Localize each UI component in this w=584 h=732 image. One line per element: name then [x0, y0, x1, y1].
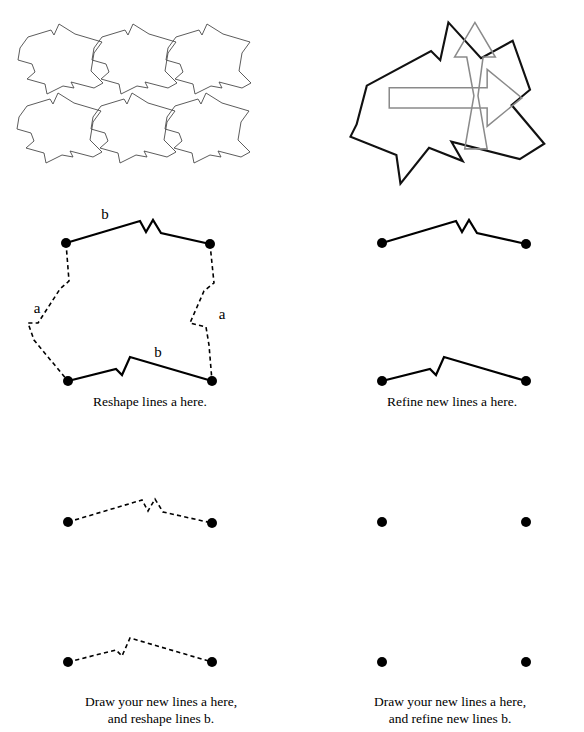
draw-and-refine-panel — [352, 490, 552, 675]
tile — [165, 93, 250, 163]
caption-draw-refine: Draw your new lines a here, and refine n… — [325, 693, 575, 727]
vertex-dot — [63, 517, 73, 527]
label-b-top: b — [101, 206, 109, 222]
edge-b-bottom-dashed — [68, 638, 212, 662]
vertex-dot — [377, 376, 387, 386]
caption-refine-a: Refine new lines a here. — [330, 393, 574, 410]
vertex-dot — [521, 239, 531, 249]
vertex-dot — [377, 657, 387, 667]
edge-b-top-dashed — [68, 499, 212, 523]
edge-b-bottom — [68, 357, 212, 381]
tile — [92, 24, 177, 94]
vertex-dot — [61, 238, 71, 248]
vertex-dot — [377, 238, 387, 248]
vertex-dot — [63, 376, 73, 386]
vertex-dot — [205, 239, 215, 249]
draw-and-reshape-panel — [40, 490, 240, 675]
edge-b-bottom — [382, 357, 526, 381]
label-a-left: a — [34, 300, 41, 316]
tile — [18, 24, 103, 94]
single-tile-with-arrows — [338, 10, 578, 195]
reshape-lines-a-panel: b a a b — [20, 205, 280, 390]
edge-b-top — [66, 220, 210, 244]
label-a-right: a — [219, 306, 226, 322]
right-arrow-icon — [389, 69, 522, 126]
tile — [166, 24, 251, 94]
caption-draw-reshape: Draw your new lines a here, and reshape … — [25, 693, 297, 727]
worksheet-page: b a a b Reshape lines a here. Refine new… — [0, 0, 584, 732]
up-arrow-icon — [455, 22, 496, 148]
tile — [17, 93, 102, 163]
refine-new-lines-a-panel — [352, 215, 552, 390]
vertex-dot — [521, 517, 531, 527]
vertex-dot — [63, 657, 73, 667]
tessellation-grid — [4, 8, 292, 198]
tile — [91, 93, 176, 163]
caption-reshape-a: Reshape lines a here. — [20, 393, 280, 410]
vertex-dot — [377, 517, 387, 527]
label-b-bottom: b — [154, 344, 162, 360]
vertex-dot — [207, 657, 217, 667]
tessellation-tiles — [17, 24, 251, 163]
vertex-dot — [521, 657, 531, 667]
edge-a-right — [190, 244, 214, 381]
vertex-dot — [521, 376, 531, 386]
edge-b-top — [382, 220, 526, 244]
vertex-dot — [207, 376, 217, 386]
vertex-dot — [207, 518, 217, 528]
